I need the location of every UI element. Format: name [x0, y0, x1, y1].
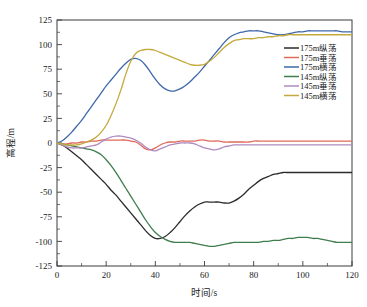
- y-tick-label: 50: [43, 89, 53, 99]
- y-tick-label: 125: [39, 15, 53, 25]
- x-axis-title: 时间/s: [191, 287, 218, 298]
- series-line-3: [57, 143, 352, 246]
- x-tick-label: 20: [102, 270, 112, 280]
- y-axis-title: 高程/m: [5, 127, 16, 158]
- y-axis-tick-labels: -125-100-75-50-250255075100125: [36, 15, 53, 271]
- x-axis-ticks: [57, 261, 352, 266]
- series-line-0: [57, 143, 352, 239]
- legend-label-0: 175m纵荡: [300, 43, 337, 53]
- legend-label-3: 145m纵荡: [300, 72, 337, 82]
- y-tick-label: 75: [43, 64, 53, 74]
- x-tick-label: 40: [151, 270, 161, 280]
- y-tick-label: 0: [48, 138, 53, 148]
- y-tick-label: -50: [40, 187, 52, 197]
- y-tick-label: 25: [43, 114, 53, 124]
- chart-figure: -125-100-75-50-250255075100125 020406080…: [0, 0, 367, 307]
- x-tick-label: 120: [345, 270, 359, 280]
- y-tick-label: -75: [40, 212, 52, 222]
- x-tick-label: 80: [249, 270, 259, 280]
- x-tick-label: 0: [55, 270, 60, 280]
- y-tick-label: 100: [39, 40, 53, 50]
- series-line-4: [57, 136, 352, 151]
- chart-canvas: -125-100-75-50-250255075100125 020406080…: [0, 0, 367, 307]
- y-tick-label: -125: [36, 261, 53, 271]
- legend-label-1: 175m垂荡: [300, 53, 337, 63]
- legend-label-5: 145m横荡: [300, 91, 337, 101]
- y-tick-label: -25: [40, 163, 52, 173]
- x-tick-label: 100: [296, 270, 310, 280]
- legend-label-4: 145m垂荡: [300, 81, 337, 91]
- legend-label-2: 175m横荡: [300, 62, 337, 72]
- x-axis-tick-labels: 020406080100120: [55, 270, 360, 280]
- x-tick-label: 60: [200, 270, 210, 280]
- y-tick-label: -100: [36, 237, 53, 247]
- chart-legend: 175m纵荡175m垂荡175m横荡145m纵荡145m垂荡145m横荡: [284, 43, 337, 100]
